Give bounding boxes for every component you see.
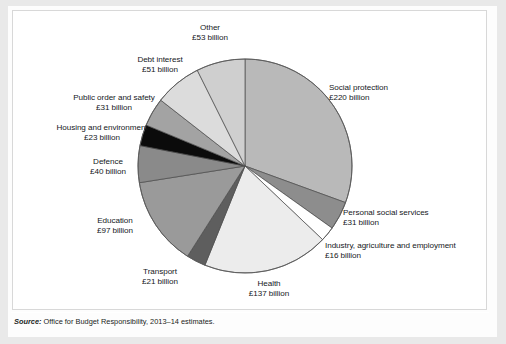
slice-label-transport: Transport £21 billion bbox=[113, 267, 207, 288]
slice-label-social-protection-value: £220 billion bbox=[329, 93, 461, 103]
slice-label-social-protection: Social protection £220 billion bbox=[329, 83, 461, 104]
slice-label-defence-value: £40 billion bbox=[55, 167, 161, 177]
slice-label-housing-and-environment-name: Housing and environment bbox=[56, 123, 147, 132]
slice-label-personal-social-services: Personal social services £31 billion bbox=[343, 208, 483, 229]
source-note-prefix: Source: bbox=[14, 317, 42, 326]
slice-label-industry-agriculture-and-employment-value: £16 billion bbox=[325, 251, 491, 261]
slice-label-industry-agriculture-and-employment-name: Industry, agriculture and employment bbox=[325, 241, 456, 250]
slice-label-defence-name: Defence bbox=[93, 157, 123, 166]
slice-label-other-name: Other bbox=[200, 23, 220, 32]
figure-panel: Other £53 billion Debt interest £51 bill… bbox=[8, 6, 497, 337]
slice-label-other-value: £53 billion bbox=[155, 33, 265, 43]
slice-label-transport-value: £21 billion bbox=[113, 277, 207, 287]
slice-label-education-name: Education bbox=[97, 216, 133, 225]
slice-label-education: Education £97 billion bbox=[63, 216, 167, 237]
slice-label-debt-interest-value: £51 billion bbox=[105, 65, 215, 75]
slice-label-personal-social-services-value: £31 billion bbox=[343, 218, 483, 228]
slice-label-debt-interest: Debt interest £51 billion bbox=[105, 55, 215, 76]
source-note: Source: Office for Budget Responsibility… bbox=[14, 317, 215, 326]
slice-label-public-order-and-safety-name: Public order and safety bbox=[73, 93, 155, 102]
chart-plate: Other £53 billion Debt interest £51 bill… bbox=[12, 10, 487, 310]
slice-label-defence: Defence £40 billion bbox=[55, 157, 161, 178]
slice-label-education-value: £97 billion bbox=[63, 226, 167, 236]
slice-label-health-name: Health bbox=[257, 279, 280, 288]
slice-label-social-protection-name: Social protection bbox=[329, 83, 388, 92]
slice-label-public-order-and-safety-value: £31 billion bbox=[47, 103, 181, 113]
slice-label-personal-social-services-name: Personal social services bbox=[343, 208, 429, 217]
pie-chart: Other £53 billion Debt interest £51 bill… bbox=[13, 11, 486, 309]
slice-label-debt-interest-name: Debt interest bbox=[137, 55, 182, 64]
slice-label-housing-and-environment: Housing and environment £23 billion bbox=[31, 123, 173, 144]
slice-label-health-value: £137 billion bbox=[221, 289, 317, 299]
source-divider bbox=[11, 312, 489, 313]
slice-label-industry-agriculture-and-employment: Industry, agriculture and employment £16… bbox=[325, 241, 491, 262]
slice-label-health: Health £137 billion bbox=[221, 279, 317, 300]
slice-label-housing-and-environment-value: £23 billion bbox=[31, 133, 173, 143]
source-note-text: Office for Budget Responsibility, 2013–1… bbox=[42, 317, 215, 326]
slice-label-public-order-and-safety: Public order and safety £31 billion bbox=[47, 93, 181, 114]
slice-label-transport-name: Transport bbox=[143, 267, 177, 276]
slice-label-other: Other £53 billion bbox=[155, 23, 265, 44]
